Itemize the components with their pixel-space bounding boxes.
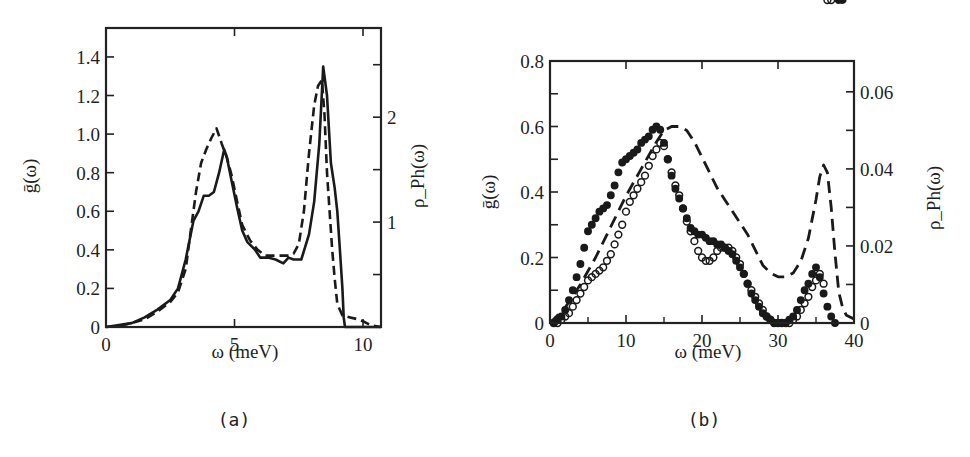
y-right-tick-label: 1 bbox=[387, 212, 397, 233]
y-right-tick-label: 0.06 bbox=[860, 82, 893, 103]
data-point bbox=[604, 202, 610, 208]
data-point bbox=[820, 290, 826, 296]
data-point bbox=[630, 192, 637, 199]
data-point bbox=[820, 280, 827, 287]
data-point bbox=[573, 274, 579, 280]
y-axis-right-label-b: ρ_Ph(ω) bbox=[923, 166, 945, 230]
panel-label-a: (a) bbox=[218, 409, 251, 430]
x-tick-label: 0 bbox=[545, 330, 555, 351]
data-point bbox=[626, 198, 633, 205]
x-axis-label-a: ω (meV) bbox=[212, 341, 279, 363]
y-tick-label: 0.6 bbox=[76, 201, 100, 222]
y-right-tick-label: 0.04 bbox=[860, 159, 894, 180]
data-point bbox=[809, 271, 815, 277]
data-point bbox=[839, 0, 845, 3]
data-point bbox=[801, 287, 807, 293]
data-point bbox=[604, 257, 611, 264]
axes-frame-a bbox=[106, 28, 381, 327]
y-tick-label: 0.4 bbox=[520, 182, 544, 203]
y-tick-label: 0.2 bbox=[76, 278, 100, 299]
y-tick-label: 1.0 bbox=[76, 124, 100, 145]
data-point bbox=[577, 290, 584, 297]
data-point bbox=[607, 251, 614, 258]
chart-panel-a: 051000.20.40.60.81.01.21.412 ω (meV) ḡ(ω… bbox=[19, 28, 429, 430]
data-point bbox=[577, 261, 583, 267]
data-point bbox=[611, 182, 617, 188]
data-point bbox=[623, 208, 630, 215]
x-axis-label-b: ω (meV) bbox=[675, 341, 742, 363]
series-line bbox=[106, 80, 381, 327]
y-tick-label: 0.4 bbox=[76, 240, 100, 261]
y-axis-right-label-a: ρ_Ph(ω) bbox=[407, 144, 429, 208]
data-point bbox=[581, 244, 587, 250]
data-point bbox=[824, 303, 830, 309]
data-point bbox=[585, 228, 591, 234]
data-point bbox=[615, 169, 621, 175]
y-tick-label: 1.4 bbox=[76, 47, 100, 68]
chart-panel-b: 01020304000.20.40.60.800.020.040.06 ω (m… bbox=[478, 0, 945, 430]
x-tick-label: 0 bbox=[101, 334, 111, 355]
plot-area-a bbox=[106, 67, 381, 327]
data-point bbox=[589, 222, 595, 228]
data-point bbox=[569, 303, 576, 310]
series-line bbox=[106, 67, 381, 327]
data-point bbox=[642, 172, 649, 179]
plot-area-b bbox=[550, 0, 854, 326]
data-point bbox=[634, 146, 640, 152]
data-point bbox=[828, 313, 834, 319]
y-tick-label: 1.2 bbox=[76, 86, 100, 107]
y-right-tick-label: 0.02 bbox=[860, 236, 893, 257]
y-tick-label: 0 bbox=[91, 317, 101, 338]
y-tick-label: 0 bbox=[535, 313, 545, 334]
data-point bbox=[645, 162, 652, 169]
x-tick-label: 10 bbox=[617, 330, 636, 351]
data-point bbox=[638, 179, 645, 186]
y-right-tick-label: 0 bbox=[860, 313, 870, 334]
data-point bbox=[619, 221, 626, 228]
y-axis-left-label-b: ḡ(ω) bbox=[478, 175, 500, 210]
y-tick-label: 0.6 bbox=[520, 117, 544, 138]
y-right-tick-label: 2 bbox=[387, 107, 397, 128]
ticks-a: 051000.20.40.60.81.01.21.412 bbox=[76, 28, 396, 355]
data-point bbox=[592, 215, 598, 221]
data-point bbox=[691, 238, 698, 245]
figure: 051000.20.40.60.81.01.21.412 ω (meV) ḡ(ω… bbox=[0, 0, 970, 457]
data-point bbox=[813, 264, 819, 270]
data-point bbox=[634, 185, 641, 192]
data-point bbox=[573, 297, 580, 304]
data-point bbox=[657, 127, 663, 133]
x-tick-label: 30 bbox=[769, 330, 788, 351]
y-tick-label: 0.2 bbox=[520, 248, 544, 269]
y-axis-left-label-a: ḡ(ω) bbox=[19, 159, 41, 194]
data-point bbox=[646, 133, 652, 139]
panel-label-b: (b) bbox=[688, 409, 721, 430]
y-tick-label: 0.8 bbox=[76, 163, 100, 184]
data-point bbox=[695, 248, 702, 255]
data-point bbox=[615, 231, 622, 238]
data-point bbox=[608, 192, 614, 198]
x-tick-label: 10 bbox=[354, 334, 373, 355]
data-point bbox=[805, 293, 812, 300]
data-point bbox=[611, 241, 618, 248]
y-tick-label: 0.8 bbox=[520, 51, 544, 72]
data-point bbox=[653, 146, 660, 153]
